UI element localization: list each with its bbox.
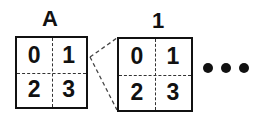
cell-2: 2 <box>119 75 155 111</box>
dot <box>221 63 231 73</box>
block-1-label: 1 <box>152 10 164 32</box>
cell-0: 0 <box>119 39 155 75</box>
cell-1: 1 <box>155 39 191 75</box>
block-1-grid: 0 1 2 3 <box>117 37 193 112</box>
ellipsis-dots <box>203 63 249 73</box>
dot <box>203 63 213 73</box>
cell-3: 3 <box>155 75 191 111</box>
dot <box>239 63 249 73</box>
